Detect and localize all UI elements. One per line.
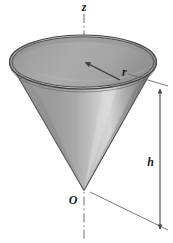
label-O: O [69,193,78,207]
height-lower-leader [90,192,168,230]
label-h: h [147,155,154,169]
label-r: r [122,65,127,79]
label-z: z [81,0,87,14]
cone-diagram-canvas: z r O h [0,0,173,243]
cone-figure: z r O h [0,0,173,243]
